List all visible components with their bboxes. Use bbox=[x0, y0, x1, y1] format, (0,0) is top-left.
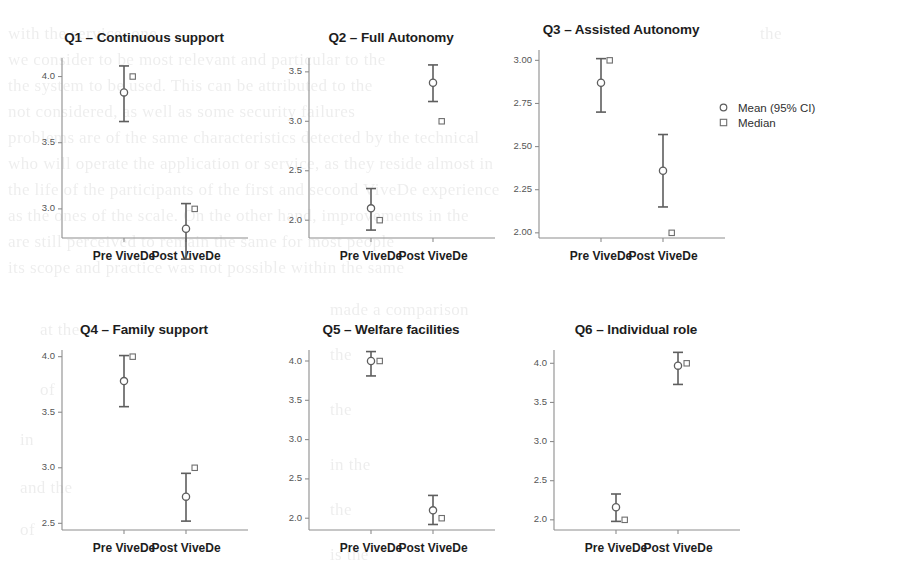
chart-panel-q2: Q2 – Full Autonomy2.02.53.03.5Pre ViveDe… bbox=[275, 30, 507, 278]
y-tick-label: 3.5 bbox=[42, 136, 55, 147]
median-marker bbox=[669, 230, 674, 235]
chart-panel-q3: Q3 – Assisted Autonomy2.002.252.502.753.… bbox=[505, 22, 737, 278]
median-marker bbox=[684, 361, 689, 366]
chart-title-q3: Q3 – Assisted Autonomy bbox=[505, 22, 737, 37]
median-marker bbox=[192, 465, 197, 470]
legend-label-median: Median bbox=[738, 117, 776, 129]
x-category-label: Post ViveDe bbox=[398, 249, 467, 263]
x-category-label: Post ViveDe bbox=[643, 541, 712, 555]
x-category-label: Pre ViveDe bbox=[93, 249, 156, 263]
y-tick-label: 2.50 bbox=[514, 140, 533, 151]
y-tick-label: 3.0 bbox=[42, 202, 55, 213]
mean-marker bbox=[429, 79, 436, 86]
chart-title-q4: Q4 – Family support bbox=[28, 322, 260, 337]
y-tick-label: 2.0 bbox=[534, 513, 547, 524]
x-category-label: Pre ViveDe bbox=[93, 541, 156, 555]
chart-canvas-q2: 2.02.53.03.5Pre ViveDePost ViveDe bbox=[275, 50, 507, 278]
chart-canvas-q1: 3.03.54.0Pre ViveDePost ViveDe bbox=[28, 50, 260, 278]
mean-marker bbox=[120, 378, 127, 385]
y-tick-label: 2.00 bbox=[514, 226, 533, 237]
median-marker bbox=[607, 58, 612, 63]
legend-entry-mean: Mean (95% CI) bbox=[718, 100, 815, 115]
y-tick-label: 3.0 bbox=[289, 115, 302, 126]
mean-marker bbox=[120, 89, 127, 96]
median-marker bbox=[439, 516, 444, 521]
chart-legend: Mean (95% CI) Median bbox=[718, 100, 815, 130]
mean-marker bbox=[659, 167, 666, 174]
y-tick-label: 2.5 bbox=[42, 517, 55, 528]
x-category-label: Post ViveDe bbox=[628, 249, 697, 263]
median-marker bbox=[192, 206, 197, 211]
x-category-label: Post ViveDe bbox=[151, 541, 220, 555]
legend-label-mean: Mean (95% CI) bbox=[738, 102, 815, 114]
square-marker-icon bbox=[718, 117, 729, 128]
median-marker bbox=[439, 119, 444, 124]
mean-marker bbox=[182, 225, 189, 232]
chart-title-q1: Q1 – Continuous support bbox=[28, 30, 260, 45]
y-tick-label: 2.0 bbox=[289, 512, 302, 523]
y-tick-label: 4.0 bbox=[42, 70, 55, 81]
y-tick-label: 3.0 bbox=[289, 433, 302, 444]
chart-panel-q4: Q4 – Family support2.53.03.54.0Pre ViveD… bbox=[28, 322, 260, 570]
chart-panel-q1: Q1 – Continuous support3.03.54.0Pre Vive… bbox=[28, 30, 260, 278]
chart-title-q2: Q2 – Full Autonomy bbox=[275, 30, 507, 45]
mean-marker bbox=[597, 79, 604, 86]
chart-title-q5: Q5 – Welfare facilities bbox=[275, 322, 507, 337]
x-category-label: Pre ViveDe bbox=[340, 249, 403, 263]
mean-marker bbox=[429, 507, 436, 514]
legend-entry-median: Median bbox=[718, 115, 815, 130]
median-marker bbox=[130, 74, 135, 79]
y-tick-label: 4.0 bbox=[42, 350, 55, 361]
mean-marker bbox=[367, 205, 374, 212]
mean-marker bbox=[612, 504, 619, 511]
y-tick-label: 3.5 bbox=[42, 406, 55, 417]
y-tick-label: 3.5 bbox=[534, 396, 547, 407]
y-tick-label: 2.75 bbox=[514, 97, 533, 108]
y-tick-label: 3.5 bbox=[289, 394, 302, 405]
x-category-label: Pre ViveDe bbox=[585, 541, 648, 555]
x-category-label: Pre ViveDe bbox=[570, 249, 633, 263]
chart-canvas-q4: 2.53.03.54.0Pre ViveDePost ViveDe bbox=[28, 342, 260, 570]
y-tick-label: 4.0 bbox=[534, 357, 547, 368]
chart-canvas-q5: 2.02.53.03.54.0Pre ViveDePost ViveDe bbox=[275, 342, 507, 570]
y-tick-label: 2.25 bbox=[514, 183, 533, 194]
x-category-label: Pre ViveDe bbox=[340, 541, 403, 555]
mean-marker bbox=[367, 357, 374, 364]
y-tick-label: 3.00 bbox=[514, 54, 533, 65]
median-marker bbox=[130, 354, 135, 359]
chart-panel-q6: Q6 – Individual role2.02.53.03.54.0Pre V… bbox=[520, 322, 752, 570]
y-tick-label: 4.0 bbox=[289, 355, 302, 366]
mean-marker bbox=[182, 493, 189, 500]
median-marker bbox=[622, 517, 627, 522]
chart-canvas-q3: 2.002.252.502.753.00Pre ViveDePost ViveD… bbox=[505, 42, 737, 278]
median-marker bbox=[377, 358, 382, 363]
y-tick-label: 2.5 bbox=[289, 472, 302, 483]
y-tick-label: 3.0 bbox=[42, 461, 55, 472]
x-category-label: Post ViveDe bbox=[398, 541, 467, 555]
chart-title-q6: Q6 – Individual role bbox=[520, 322, 752, 337]
circle-marker-icon bbox=[718, 102, 729, 113]
chart-canvas-q6: 2.02.53.03.54.0Pre ViveDePost ViveDe bbox=[520, 342, 752, 570]
y-tick-label: 2.5 bbox=[289, 164, 302, 175]
y-tick-label: 3.5 bbox=[289, 65, 302, 76]
y-tick-label: 3.0 bbox=[534, 435, 547, 446]
chart-panel-q5: Q5 – Welfare facilities2.02.53.03.54.0Pr… bbox=[275, 322, 507, 570]
y-tick-label: 2.5 bbox=[534, 474, 547, 485]
mean-marker bbox=[674, 362, 681, 369]
y-tick-label: 2.0 bbox=[289, 214, 302, 225]
median-marker bbox=[377, 217, 382, 222]
figure-panel-grid: Q1 – Continuous support3.03.54.0Pre Vive… bbox=[0, 0, 901, 583]
